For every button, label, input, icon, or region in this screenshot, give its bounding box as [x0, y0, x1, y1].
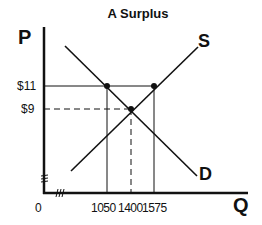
demand-label: D	[199, 164, 212, 185]
x-axis-label: Q	[233, 194, 249, 217]
diagram-title: A Surplus	[0, 6, 262, 21]
supply-demand-diagram	[0, 0, 262, 225]
x-axis-break-icon	[56, 189, 64, 197]
point-qd-at-11	[104, 83, 110, 89]
point-qs-at-11	[151, 83, 157, 89]
quantity-tick-1575: 1575	[142, 201, 167, 215]
supply-label: S	[198, 31, 210, 52]
quantity-tick-1400: 1400	[118, 201, 143, 215]
origin-label: 0	[35, 201, 42, 215]
y-axis-label: P	[18, 26, 31, 49]
supply-curve	[71, 47, 198, 171]
point-equilibrium	[128, 106, 134, 112]
price-tick-9: $9	[21, 102, 34, 116]
price-tick-11: $11	[17, 79, 36, 93]
quantity-tick-1050: 1050	[91, 201, 116, 215]
